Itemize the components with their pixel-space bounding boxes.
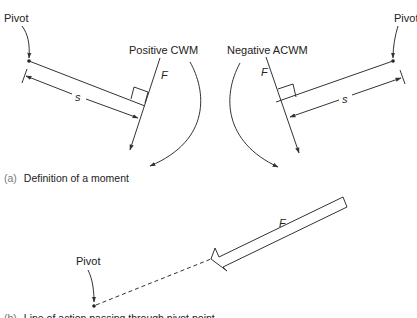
- moment-diagram: Pivot F s Positive CWM Pivot F s: [0, 0, 417, 318]
- caption-a-text: Definition of a moment: [24, 172, 129, 184]
- left-force-arrow: [130, 58, 160, 150]
- line-of-action-dashed: [96, 259, 211, 305]
- left-dimension-line-a: [26, 76, 72, 94]
- anticlockwise-moment-arc: [230, 63, 278, 167]
- caption-a: (a) Definition of a moment: [4, 168, 129, 185]
- left-right-angle-mark: [131, 87, 148, 103]
- right-pivot-pointer-arrow: [393, 26, 398, 58]
- panel-a-right: Pivot F s Negative ACWM: [227, 12, 417, 167]
- right-moment-label: Negative ACWM: [227, 44, 308, 56]
- right-dimension-line-b: [290, 100, 339, 117]
- right-force-label: F: [261, 66, 269, 78]
- right-right-angle-mark: [278, 84, 296, 97]
- left-pivot-pointer-arrow: [22, 26, 29, 58]
- left-moment-label: Positive CWM: [129, 44, 198, 56]
- panel-b-pivot-point: [92, 304, 96, 308]
- left-dimension-line-b: [86, 99, 138, 118]
- panel-a-left: Pivot F s Positive CWM: [4, 12, 201, 166]
- right-dimension-line-a: [352, 78, 401, 95]
- caption-a-label: (a): [4, 172, 17, 184]
- force-block-arrow: [211, 197, 347, 271]
- left-distance-label: s: [75, 91, 81, 103]
- caption-b-text: Line of action passing through pivot poi…: [24, 312, 215, 318]
- panel-b-pivot-label: Pivot: [76, 255, 100, 267]
- left-force-label: F: [161, 69, 169, 81]
- right-distance-label: s: [342, 93, 348, 105]
- panel-b: Pivot F: [76, 197, 347, 308]
- clockwise-moment-arc: [150, 62, 201, 166]
- panel-b-pivot-pointer-arrow: [88, 270, 94, 302]
- right-lever-arm: [276, 61, 393, 102]
- right-force-arrow: [266, 57, 299, 153]
- left-pivot-label: Pivot: [4, 12, 28, 24]
- caption-b: (b) Line of action passing through pivot…: [4, 308, 215, 318]
- right-dimension-tick: [400, 70, 405, 84]
- caption-b-label: (b): [4, 312, 17, 318]
- right-pivot-label: Pivot: [394, 12, 417, 24]
